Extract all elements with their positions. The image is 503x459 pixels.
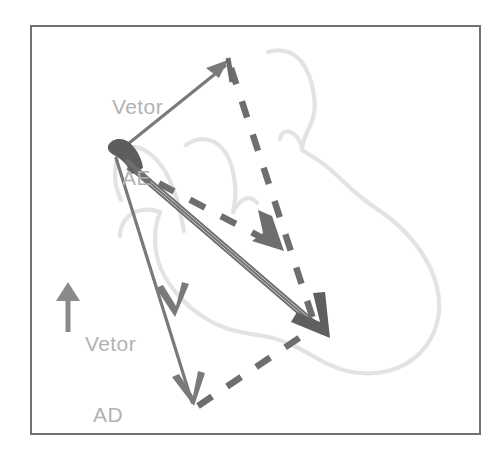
label-vetor-ad: Vetor AD <box>85 285 136 459</box>
label-vetor-ad-line1: Vetor <box>85 332 136 356</box>
figure-canvas <box>0 0 503 459</box>
label-vetor-ae-line2: AE <box>112 166 163 190</box>
label-vetor-ad-line2: AD <box>85 403 136 427</box>
label-vetor-ae: Vetor AE <box>112 48 163 236</box>
label-vetor-ae-line1: Vetor <box>112 95 163 119</box>
vector-diagram-figure: Vetor AE Vetor AD <box>0 0 503 459</box>
figure-background <box>0 0 503 459</box>
